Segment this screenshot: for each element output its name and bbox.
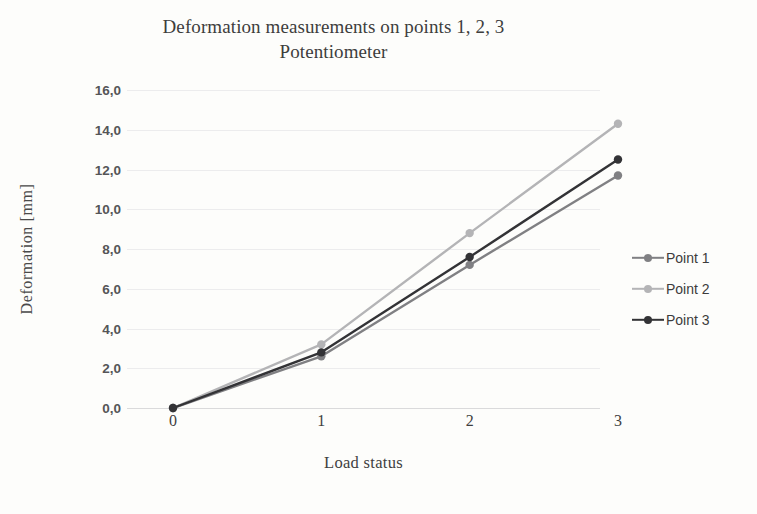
y-axis-tick-label: 4,0	[65, 321, 121, 336]
y-axis-tick-label: 0,0	[65, 401, 121, 416]
series-point-2	[169, 120, 622, 413]
legend-item-label: Point 1	[666, 250, 710, 266]
legend-item-label: Point 3	[666, 312, 710, 328]
series-line	[173, 160, 618, 408]
legend-item[interactable]: Point 1	[632, 242, 752, 273]
series-point-1	[169, 171, 622, 412]
data-point-marker	[614, 171, 622, 179]
data-point-marker	[465, 229, 473, 237]
series-line	[173, 175, 618, 408]
y-axis-title: Deformation [mm]	[18, 90, 44, 408]
data-point-marker	[614, 120, 622, 128]
y-axis-tick-label: 6,0	[65, 281, 121, 296]
x-axis-tick-label: 3	[614, 412, 622, 430]
y-axis-tick-label: 8,0	[65, 242, 121, 257]
chart-legend: Point 1Point 2Point 3	[632, 242, 752, 335]
legend-key-icon	[632, 252, 664, 264]
data-point-marker	[614, 155, 622, 163]
y-axis-tick-label: 2,0	[65, 361, 121, 376]
series-layer	[127, 90, 600, 408]
legend-item-label: Point 2	[666, 281, 710, 297]
data-point-marker	[317, 340, 325, 348]
legend-item[interactable]: Point 3	[632, 304, 752, 335]
series-point-3	[169, 155, 622, 412]
y-axis-tick-label: 10,0	[65, 202, 121, 217]
y-axis-tick-label: 14,0	[65, 122, 121, 137]
chart-title-line-1: Deformation measurements on points 1, 2,…	[163, 16, 505, 37]
data-point-marker	[169, 404, 177, 412]
plot-area: 0,02,04,06,08,010,012,014,016,0 0123	[127, 90, 600, 408]
x-axis-tick-label: 0	[169, 412, 177, 430]
data-point-marker	[317, 348, 325, 356]
chart-title-line-2: Potentiometer	[0, 39, 667, 64]
y-axis-tick-label: 12,0	[65, 162, 121, 177]
data-point-marker	[465, 261, 473, 269]
legend-key-icon	[632, 314, 664, 326]
gridline	[127, 408, 600, 409]
chart-container: Deformation measurements on points 1, 2,…	[0, 0, 757, 514]
legend-key-icon	[632, 283, 664, 295]
x-axis-tick-label: 2	[466, 412, 474, 430]
data-point-marker	[465, 253, 473, 261]
legend-item[interactable]: Point 2	[632, 273, 752, 304]
x-axis-title: Load status	[127, 453, 600, 473]
y-axis-tick-label: 16,0	[65, 83, 121, 98]
x-axis-tick-label: 1	[317, 412, 325, 430]
series-line	[173, 124, 618, 408]
chart-title: Deformation measurements on points 1, 2,…	[0, 14, 667, 64]
